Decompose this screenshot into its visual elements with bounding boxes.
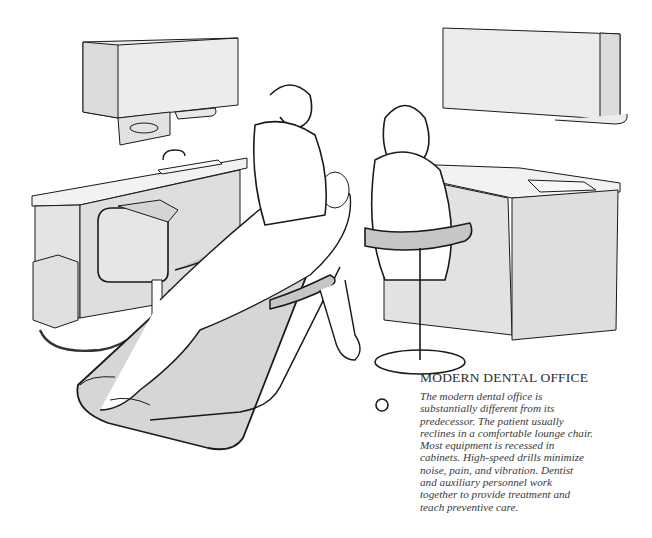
caption-line: substantially different from its xyxy=(420,402,652,414)
left-wall-cabinet xyxy=(83,38,238,145)
caption-title: MODERN DENTAL OFFICE xyxy=(420,370,652,386)
caption-line: The modern dental office is xyxy=(420,390,652,402)
caption-line: cabinets. High-speed drills minimize xyxy=(420,451,652,463)
caption-line: and auxiliary personnel work xyxy=(420,476,652,488)
right-wall-cabinet xyxy=(443,28,627,124)
caption-line: Most equipment is recessed in xyxy=(420,439,652,451)
caption-line: reclines in a comfortable lounge chair. xyxy=(420,427,652,439)
caption-line: teach preventive care. xyxy=(420,501,652,513)
caption-line: predecessor. The patient usually xyxy=(420,415,652,427)
caption-body: The modern dental office is substantiall… xyxy=(420,390,652,513)
caption-line: together to provide treatment and xyxy=(420,488,652,500)
caption: MODERN DENTAL OFFICE The modern dental o… xyxy=(420,370,652,513)
caption-line: noise, pain, and vibration. Dentist xyxy=(420,464,652,476)
